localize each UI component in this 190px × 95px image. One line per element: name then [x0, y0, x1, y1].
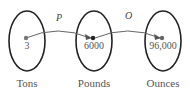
function-label-o: O	[125, 10, 132, 21]
set-label-pounds: Pounds	[64, 77, 124, 89]
set-label-ounces: Ounces	[133, 77, 190, 89]
value-pounds: 6000	[69, 40, 119, 51]
value-ounces: 96,000	[138, 40, 188, 51]
set-label-tons: Tons	[0, 77, 57, 89]
value-tons: 3	[2, 40, 52, 51]
arrow-p	[26, 31, 90, 38]
function-label-p: P	[56, 12, 62, 23]
arrow-o	[95, 31, 160, 38]
